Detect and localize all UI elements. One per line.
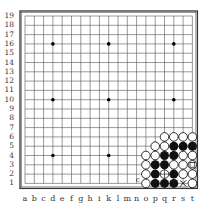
black-stone	[169, 179, 178, 188]
row-label: 11	[2, 86, 14, 94]
row-label: 9	[2, 105, 14, 113]
white-stone	[179, 161, 188, 170]
white-stone	[179, 170, 188, 179]
star-point	[107, 98, 111, 102]
row-label: 10	[2, 96, 14, 104]
star-point	[51, 154, 55, 158]
column-label: e	[58, 195, 66, 203]
black-stone	[151, 179, 160, 188]
column-label: i	[95, 195, 103, 203]
black-stone	[169, 170, 178, 179]
white-stone	[179, 133, 188, 142]
column-label: q	[161, 195, 169, 203]
column-label: k	[105, 195, 113, 203]
white-stone	[160, 133, 169, 142]
row-label: 14	[2, 59, 14, 67]
row-label: 8	[2, 114, 14, 122]
row-label: 16	[2, 40, 14, 48]
go-board-diagram: c 19181716151413121110987654321abcdefghi…	[0, 0, 209, 219]
row-label: 6	[2, 133, 14, 141]
white-stone	[188, 161, 197, 170]
star-point	[51, 42, 55, 46]
white-stone	[188, 179, 197, 188]
column-label: a	[21, 195, 29, 203]
column-label: h	[86, 195, 94, 203]
black-stone	[169, 151, 178, 160]
column-label: r	[170, 195, 178, 203]
white-stone	[142, 161, 151, 170]
row-label: 1	[2, 179, 14, 187]
column-label: m	[123, 195, 131, 203]
column-label: n	[133, 195, 141, 203]
white-stone	[188, 133, 197, 142]
star-point	[107, 42, 111, 46]
column-label: t	[188, 195, 196, 203]
row-label: 3	[2, 161, 14, 169]
white-stone	[188, 170, 197, 179]
white-stone	[170, 161, 179, 170]
column-label: c	[40, 195, 48, 203]
star-point	[107, 154, 111, 158]
column-label: g	[77, 195, 85, 203]
white-stone	[142, 151, 151, 160]
star-point	[51, 98, 55, 102]
white-stone	[142, 179, 151, 188]
row-label: 5	[2, 142, 14, 150]
white-stone	[179, 151, 188, 160]
column-label: s	[179, 195, 187, 203]
row-label: 17	[2, 31, 14, 39]
row-label: 2	[2, 170, 14, 178]
column-label: o	[142, 195, 150, 203]
row-label: 19	[2, 12, 14, 20]
white-stone	[151, 142, 160, 151]
go-board: c	[0, 0, 209, 219]
row-label: 18	[2, 21, 14, 29]
white-stone	[188, 151, 197, 160]
star-point	[172, 98, 176, 102]
white-stone	[170, 133, 179, 142]
white-stone	[151, 151, 160, 160]
black-stone	[160, 160, 169, 169]
row-label: 13	[2, 68, 14, 76]
black-stone	[169, 142, 178, 151]
column-label: p	[151, 195, 159, 203]
star-point	[172, 42, 176, 46]
black-stone	[151, 160, 160, 169]
black-stone	[151, 170, 160, 179]
white-stone	[160, 142, 169, 151]
row-label: 12	[2, 77, 14, 85]
black-stone	[188, 142, 197, 151]
column-label: l	[114, 195, 122, 203]
column-label: b	[30, 195, 38, 203]
column-label: d	[49, 195, 57, 203]
black-stone	[179, 142, 188, 151]
white-stone	[142, 170, 151, 179]
row-label: 7	[2, 124, 14, 132]
black-stone	[160, 179, 169, 188]
letter-mark: c	[136, 176, 140, 184]
black-stone	[160, 151, 169, 160]
row-label: 4	[2, 152, 14, 160]
column-label: f	[68, 195, 76, 203]
row-label: 15	[2, 49, 14, 57]
